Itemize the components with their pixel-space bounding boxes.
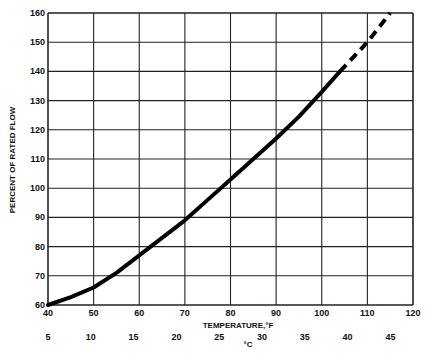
y-tick-label: 80	[35, 242, 45, 252]
celsius-tick-label: 40	[343, 332, 353, 342]
x-axis-label-celsius: °C	[244, 340, 253, 349]
celsius-tick-label: 35	[300, 332, 310, 342]
celsius-tick-label: 10	[86, 332, 96, 342]
x-tick-label: 80	[225, 308, 235, 318]
x-tick-label: 100	[314, 308, 329, 318]
x-axis-label: TEMPERATURE,°F	[203, 321, 274, 330]
x-tick-label: 90	[271, 308, 281, 318]
y-tick-label: 90	[35, 212, 45, 222]
x-tick-label: 110	[360, 308, 375, 318]
tick-labels: 4050607080901001101206070809010011012013…	[30, 8, 421, 342]
x-tick-label: 70	[180, 308, 190, 318]
y-tick-label: 120	[30, 125, 45, 135]
x-tick-label: 120	[405, 308, 420, 318]
grid	[48, 13, 413, 305]
celsius-tick-label: 15	[129, 332, 139, 342]
y-tick-label: 70	[35, 271, 45, 281]
y-tick-label: 60	[35, 300, 45, 310]
celsius-tick-label: 30	[257, 332, 267, 342]
celsius-tick-label: 5	[45, 332, 50, 342]
y-tick-label: 140	[30, 66, 45, 76]
y-tick-label: 110	[30, 154, 45, 164]
celsius-tick-label: 45	[385, 332, 395, 342]
y-tick-label: 150	[30, 37, 45, 47]
y-axis-label: PERCENT OF RATED FLOW	[8, 106, 17, 213]
y-tick-label: 100	[30, 183, 45, 193]
y-tick-label: 130	[30, 96, 45, 106]
x-tick-label: 60	[134, 308, 144, 318]
x-tick-label: 50	[89, 308, 99, 318]
flow-vs-temperature-chart: 4050607080901001101206070809010011012013…	[0, 0, 435, 362]
celsius-tick-label: 25	[214, 332, 224, 342]
celsius-tick-label: 20	[171, 332, 181, 342]
y-tick-label: 160	[30, 8, 45, 18]
